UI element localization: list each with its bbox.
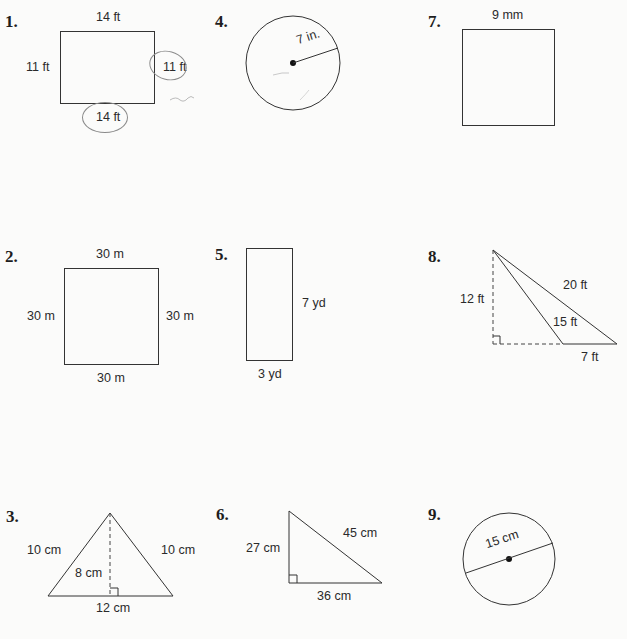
figure-9-circle [0, 0, 627, 639]
